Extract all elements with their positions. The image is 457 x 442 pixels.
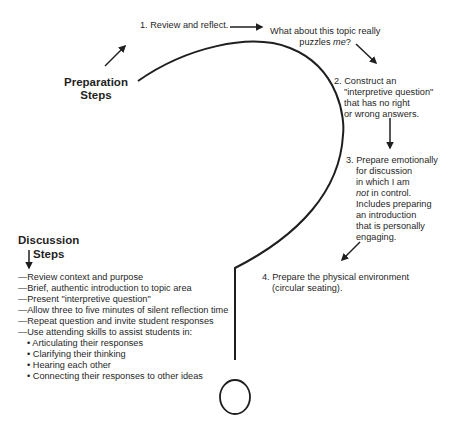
step-1-text: 1. Review and reflect. bbox=[140, 20, 228, 31]
step-3-line: in which I am bbox=[346, 177, 438, 188]
discussion-steps-title-line1: Discussion bbox=[18, 234, 79, 247]
reflection-line2: puzzles me? bbox=[270, 37, 380, 48]
step-3-line: an introduction bbox=[346, 210, 438, 221]
step-2-text: 2. Construct an "interpretive question" … bbox=[334, 76, 433, 120]
discussion-item: —Allow three to five minutes of silent r… bbox=[18, 305, 228, 316]
reflection-question: What about this topic really puzzles me? bbox=[270, 26, 380, 48]
arrow-step3-to-step4 bbox=[342, 242, 360, 260]
step-4-line2: (circular seating). bbox=[262, 283, 409, 294]
preparation-title-line1: Preparation bbox=[64, 76, 128, 89]
step-3-line: for discussion bbox=[346, 166, 438, 177]
discussion-steps-list: —Review context and purpose —Brief, auth… bbox=[18, 272, 228, 382]
step-3-text: 3. Prepare emotionally for discussion in… bbox=[346, 155, 438, 243]
preparation-steps-label: Preparation Steps bbox=[64, 76, 128, 102]
discussion-steps-title-line2: Steps bbox=[33, 248, 64, 261]
step-2-line: 2. Construct an bbox=[334, 76, 433, 87]
discussion-bullet: • Hearing each other bbox=[18, 360, 228, 371]
discussion-item: —Brief, authentic introduction to topic … bbox=[18, 283, 228, 294]
discussion-item: —Repeat question and invite student resp… bbox=[18, 316, 228, 327]
step-2-line: or wrong answers. bbox=[334, 109, 433, 120]
reflection-line1: What about this topic really bbox=[270, 26, 380, 37]
step-3-rest: in control. bbox=[369, 188, 411, 198]
discussion-bullet: • Clarifying their thinking bbox=[18, 349, 228, 360]
step-2-line: "interpretive question" bbox=[334, 87, 433, 98]
discussion-item: —Use attending skills to assist students… bbox=[18, 327, 228, 338]
discussion-bullet: • Connecting their responses to other id… bbox=[18, 371, 228, 382]
step-3-line: that is personally bbox=[346, 221, 438, 232]
step-4-text: 4. Prepare the physical environment (cir… bbox=[262, 272, 409, 294]
step-3-line: 3. Prepare emotionally bbox=[346, 155, 438, 166]
step-3-line: Includes preparing bbox=[346, 199, 438, 210]
step-2-line: that has no right bbox=[334, 98, 433, 109]
reflection-pre: puzzles bbox=[299, 37, 333, 47]
question-mark-dot bbox=[220, 380, 250, 414]
discussion-item: —Review context and purpose bbox=[18, 272, 228, 283]
step-3-line: engaging. bbox=[346, 232, 438, 243]
reflection-emphasis: me bbox=[333, 37, 346, 47]
step-4-line1: 4. Prepare the physical environment bbox=[262, 272, 409, 283]
reflection-post: ? bbox=[346, 37, 351, 47]
preparation-title-line2: Steps bbox=[64, 89, 128, 102]
discussion-bullet: • Articulating their responses bbox=[18, 338, 228, 349]
step-3-emphasis: not bbox=[356, 188, 369, 198]
arrow-prep-to-step1 bbox=[105, 46, 125, 66]
discussion-item: —Present "interpretive question" bbox=[18, 294, 228, 305]
step-3-line: not in control. bbox=[346, 188, 438, 199]
